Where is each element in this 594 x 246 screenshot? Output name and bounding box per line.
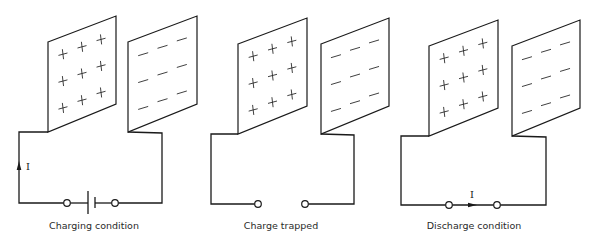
wire-right: [500, 136, 546, 205]
plate-negative-outline: [321, 18, 389, 134]
panel-discharge-condition: I: [401, 20, 580, 208]
capacitor-diagram: I I: [0, 0, 594, 246]
plate-negative: [512, 20, 580, 136]
current-arrow-icon: [17, 161, 22, 170]
plate-positive: [238, 18, 307, 134]
plate-positive: [429, 20, 498, 136]
plate-negative-outline: [512, 20, 580, 136]
plate-negative: [321, 18, 389, 134]
terminal-1: [446, 202, 453, 209]
terminal-2: [494, 202, 501, 209]
panel-charging-condition: I: [17, 16, 197, 214]
current-label: I: [26, 161, 30, 172]
wire-left: [211, 134, 255, 204]
wire-right: [118, 132, 162, 203]
current-arrow-icon: [468, 203, 477, 208]
caption-charging-condition: Charging condition: [49, 220, 139, 231]
plate-positive: [48, 16, 116, 132]
terminal-1: [64, 200, 71, 207]
terminal-2: [112, 200, 119, 207]
battery-icon: [88, 191, 95, 214]
plate-negative-outline: [128, 16, 197, 132]
wire-right: [308, 134, 354, 204]
plate-negative: [128, 16, 197, 132]
caption-charge-trapped: Charge trapped: [244, 220, 319, 231]
caption-discharge-condition: Discharge condition: [427, 220, 522, 231]
terminal-2: [302, 201, 309, 208]
terminal-1: [255, 201, 262, 208]
current-label: I: [470, 189, 474, 200]
panel-charge-trapped: [211, 18, 389, 207]
wire-left: [401, 136, 446, 205]
